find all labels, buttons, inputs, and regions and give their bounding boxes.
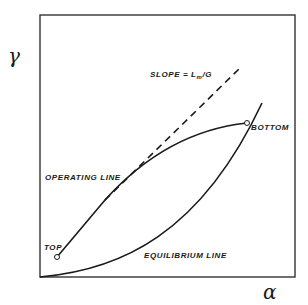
x-axis-label: α [263, 282, 277, 302]
top-label: TOP [44, 243, 62, 252]
slope-tangent-dashed-line [105, 68, 240, 200]
slope-label: SLOPE = Lm/G [150, 70, 212, 80]
equilibrium-line-label: EQUILIBRIUM LINE [144, 251, 227, 260]
top-marker-icon [55, 255, 60, 260]
y-axis-label: γ [8, 46, 20, 66]
operating-line-label: OPERATING LINE [45, 173, 121, 182]
slope-label-suffix: /G [202, 70, 212, 79]
slope-label-prefix: SLOPE = L [150, 70, 197, 79]
plot-frame [40, 15, 295, 277]
operating-curve [57, 123, 247, 257]
operating-equilibrium-diagram: γ α SLOPE = Lm/G BOTTOM OPERATING LINE T… [0, 0, 308, 305]
bottom-marker-icon [245, 121, 250, 126]
bottom-label: BOTTOM [251, 123, 289, 132]
